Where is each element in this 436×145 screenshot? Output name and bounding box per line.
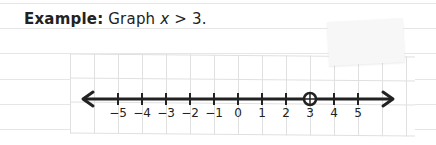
tick-label: 0 [234,106,242,120]
tick-label: 1 [258,106,266,120]
tick-label: 5 [354,106,362,120]
tick-label: 3 [306,106,314,120]
tick-label: 2 [282,106,290,120]
tick-label: 4 [330,106,338,120]
tick-label: −4 [133,106,151,120]
number-line [0,0,436,145]
open-circle-icon [304,93,316,105]
tick-label: −1 [205,106,223,120]
tick-label: −5 [109,106,127,120]
tick-label: −3 [157,106,175,120]
tick-label: −2 [181,106,199,120]
